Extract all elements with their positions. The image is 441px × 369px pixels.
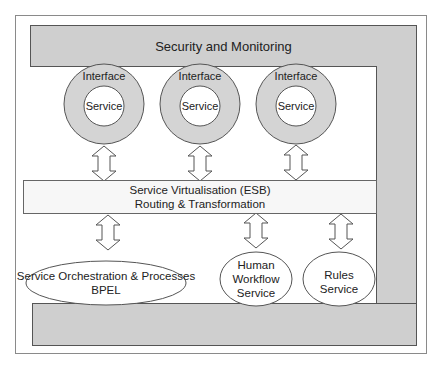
interface-label: Interface: [275, 70, 318, 82]
orchestration-ellipse: [26, 261, 186, 305]
double-arrow-icon: [92, 146, 116, 181]
human-workflow-label-line2: Workflow: [232, 273, 280, 285]
human-workflow-label-line3: Service: [237, 287, 275, 299]
service-label: Service: [278, 100, 315, 112]
interface-label: Interface: [179, 70, 222, 82]
service-label: Service: [86, 100, 123, 112]
double-arrow-icon: [284, 145, 308, 180]
double-arrow-icon: [188, 146, 212, 181]
service-label: Service: [182, 100, 219, 112]
esb-label-line2: Routing & Transformation: [135, 197, 265, 211]
orchestration-label-line1: Service Orchestration & Processes: [17, 270, 196, 282]
rules-label-line1: Rules: [324, 269, 354, 281]
double-arrow-icon: [96, 215, 120, 250]
human-workflow-label-line1: Human: [237, 259, 274, 271]
rules-label-line2: Service: [320, 283, 358, 295]
double-arrow-icon: [244, 213, 268, 248]
esb-bar: Service Virtualisation (ESB) Routing & T…: [23, 180, 377, 214]
double-arrow-icon: [329, 214, 353, 249]
esb-label-line1: Service Virtualisation (ESB): [129, 183, 270, 197]
orchestration-label-line2: BPEL: [91, 284, 121, 296]
interface-label: Interface: [83, 70, 126, 82]
